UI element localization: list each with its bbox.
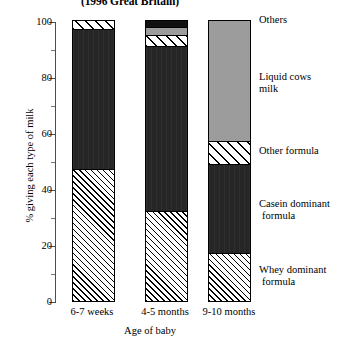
legend-label-casein-line1: Casein dominant (259, 198, 347, 210)
y-axis-minor-tick-50 (51, 162, 55, 163)
y-axis-minor-tick-10 (51, 274, 55, 275)
plot-area: 100 80 60 40 20 0 % giving each type of … (0, 0, 347, 351)
x-axis-title: Age of baby (55, 325, 245, 337)
segment-liquid-cows-milk (209, 21, 250, 141)
x-axis-baseline (55, 302, 56, 303)
y-axis-minor-tick-90 (51, 50, 55, 51)
segment-other-formula (73, 21, 114, 29)
segment-liquid-cows-milk (146, 27, 187, 35)
segment-casein-dominant-formula (73, 29, 114, 169)
legend-label-whey-line2: formula (262, 276, 347, 288)
x-axis-label-9-10-months: 9-10 months (183, 306, 275, 318)
legend-label-liquid-cows-milk-line2: milk (259, 83, 347, 95)
stacked-bar-chart: (1996 Great Britain) 100 80 60 40 20 0 %… (0, 0, 347, 351)
segment-casein-dominant-formula (146, 46, 187, 211)
y-axis-title: % giving each type of milk (24, 76, 35, 256)
y-axis-minor-tick-70 (51, 106, 55, 107)
legend-label-whey-line1: Whey dominant (259, 264, 347, 276)
y-axis-minor-tick-30 (51, 218, 55, 219)
legend-label-others: Others (259, 14, 347, 26)
legend-label-other-formula: Other formula (259, 145, 347, 157)
legend-label-liquid-cows-milk-line1: Liquid cows (259, 71, 347, 83)
segment-whey-dominant-formula (73, 169, 114, 301)
y-axis-line (55, 22, 56, 303)
segment-other-formula (146, 35, 187, 46)
segment-other-formula (209, 141, 250, 163)
bar-6-7-weeks (72, 20, 115, 302)
segment-whey-dominant-formula (209, 253, 250, 301)
bar-9-10-months (208, 20, 251, 302)
segment-casein-dominant-formula (209, 164, 250, 254)
segment-whey-dominant-formula (146, 211, 187, 301)
y-axis-label-100: 100 (12, 17, 52, 27)
legend-label-casein-line2: formula (262, 210, 347, 222)
bar-4-5-months (145, 20, 188, 302)
